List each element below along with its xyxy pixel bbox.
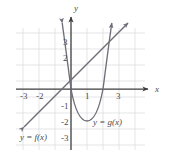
graph-figure: -3 -2 1 3 3 2 -1 -2 -3 x y y = f(x) y = … <box>0 0 171 156</box>
x-axis-label: x <box>155 85 159 94</box>
axes <box>16 17 148 150</box>
x-tick-label-3: 3 <box>116 92 121 101</box>
curve-f <box>24 23 128 127</box>
y-axis-label: y <box>74 4 78 13</box>
x-tick-label-1: 1 <box>85 92 90 101</box>
curve-label-f: y = f(x) <box>20 133 47 142</box>
y-tick-label-3: 3 <box>63 38 68 47</box>
x-tick-label-neg2: -2 <box>36 92 44 101</box>
curve-label-g: y = g(x) <box>93 118 122 127</box>
x-tick-label-neg3: -3 <box>20 92 28 101</box>
y-tick-label-neg1: -1 <box>61 102 69 111</box>
y-tick-label-neg3: -3 <box>61 134 69 143</box>
y-tick-label-2: 2 <box>63 54 68 63</box>
y-tick-label-neg2: -2 <box>61 118 69 127</box>
